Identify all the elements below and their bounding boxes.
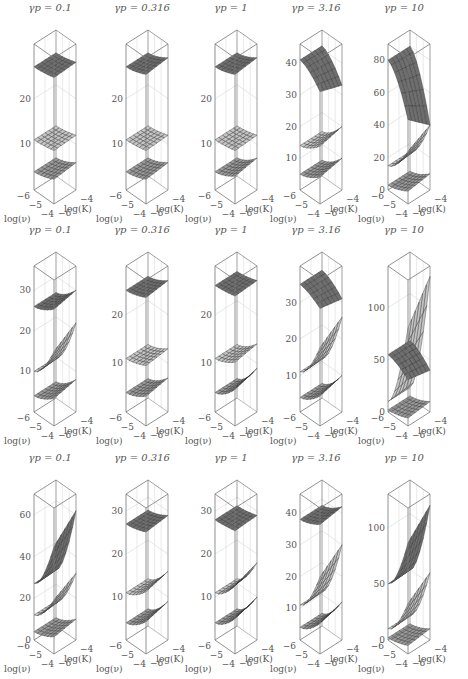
x-axis-label: log(ν)	[358, 436, 385, 446]
x-axis-label: log(ν)	[96, 664, 123, 674]
z-tick-label: 80	[374, 55, 386, 65]
z-tick-label: 30	[286, 298, 298, 308]
surface-plot-panel: γp = 0.316102030−6−5−4−6−4log(ν)log(K)	[96, 450, 188, 670]
surface-plot-panel: γp = 10020406080−6−5−4−6−4log(ν)log(K)	[358, 0, 450, 220]
z-tick-label: 20	[374, 153, 386, 163]
svg-text:−4: −4	[307, 209, 321, 219]
svg-text:−4: −4	[434, 416, 448, 426]
z-tick-label: 20	[20, 326, 32, 336]
z-tick-label: 20	[112, 310, 124, 320]
y-axis-label: log(K)	[418, 654, 446, 664]
z-tick-label: 40	[20, 552, 32, 562]
z-tick-label: 40	[374, 120, 386, 130]
z-tick-label: 10	[201, 139, 213, 149]
z-tick-label: 20	[286, 334, 298, 344]
svg-text:−4: −4	[307, 659, 321, 669]
z-tick-label: 30	[286, 540, 298, 550]
svg-text:−4: −4	[395, 659, 409, 669]
z-tick-label: 10	[20, 366, 32, 376]
z-tick-label: 20	[286, 572, 298, 582]
y-axis-label: log(K)	[156, 426, 184, 436]
z-tick-label: 50	[374, 355, 386, 365]
surface-plot-panel: γp = 10050100−6−5−4−6−4log(ν)log(K)	[358, 450, 450, 670]
surface-plot-panel: γp = 3.1610203040−6−5−4−6−4log(ν)log(K)	[270, 450, 362, 670]
y-axis-label: log(K)	[156, 654, 184, 664]
z-tick-label: 20	[112, 549, 124, 559]
z-tick-label: 100	[368, 303, 385, 313]
z-tick-label: 20	[201, 94, 213, 104]
x-axis-label: log(ν)	[185, 664, 212, 674]
surface-plot-panel: γp = 10050100−6−5−4−6−4log(ν)log(K)	[358, 222, 450, 442]
svg-text:−4: −4	[41, 209, 55, 219]
svg-text:−4: −4	[133, 431, 147, 441]
z-tick-label: 10	[112, 592, 124, 602]
y-axis-label: log(K)	[156, 204, 184, 214]
z-tick-label: 20	[20, 593, 32, 603]
surface-plot-panel: γp = 0.10204060−6−5−4−6−4log(ν)log(K)	[4, 450, 96, 670]
z-tick-label: 10	[112, 139, 124, 149]
y-axis-label: log(K)	[64, 654, 92, 664]
svg-text:−4: −4	[434, 644, 448, 654]
z-tick-label: 20	[201, 310, 213, 320]
y-axis-label: log(K)	[418, 426, 446, 436]
svg-text:−4: −4	[222, 209, 236, 219]
svg-text:−4: −4	[222, 431, 236, 441]
surface-plot-panel: γp = 1102030−6−5−4−6−4log(ν)log(K)	[185, 450, 277, 670]
y-axis-label: log(K)	[64, 426, 92, 436]
surface-plot-panel: γp = 3.1610203040−6−5−4−6−4log(ν)log(K)	[270, 0, 362, 220]
x-axis-label: log(ν)	[358, 664, 385, 674]
z-tick-label: 30	[201, 506, 213, 516]
surface-plot-panel: γp = 0.3161020−6−5−4−6−4log(ν)log(K)	[96, 0, 188, 220]
z-tick-label: 10	[286, 371, 298, 381]
x-axis-label: log(ν)	[96, 436, 123, 446]
z-tick-label: 10	[20, 139, 32, 149]
z-tick-label: 60	[20, 510, 32, 520]
svg-text:−4: −4	[41, 659, 55, 669]
z-tick-label: 20	[112, 94, 124, 104]
surface-plot-panel: γp = 11020−6−5−4−6−4log(ν)log(K)	[185, 222, 277, 442]
surface-plot-panel: γp = 0.11020−6−5−4−6−4log(ν)log(K)	[4, 0, 96, 220]
y-axis-label: log(K)	[64, 204, 92, 214]
svg-text:−4: −4	[41, 431, 55, 441]
z-tick-label: 10	[112, 358, 124, 368]
surface-plot-panel: γp = 0.1102030−6−5−4−6−4log(ν)log(K)	[4, 222, 96, 442]
z-tick-label: 10	[201, 358, 213, 368]
figure-grid: γp = 0.11020−6−5−4−6−4log(ν)log(K)γp = 0…	[0, 0, 468, 679]
z-tick-label: 40	[286, 58, 298, 68]
z-tick-label: 40	[286, 508, 298, 518]
svg-text:−4: −4	[395, 431, 409, 441]
x-axis-label: log(ν)	[4, 664, 31, 674]
svg-text:−4: −4	[222, 659, 236, 669]
svg-text:−4: −4	[133, 209, 147, 219]
svg-text:−4: −4	[434, 194, 448, 204]
x-axis-label: log(ν)	[270, 436, 297, 446]
svg-text:−4: −4	[133, 659, 147, 669]
surface-plot-panel: γp = 3.16102030−6−5−4−6−4log(ν)log(K)	[270, 222, 362, 442]
x-axis-label: log(ν)	[185, 436, 212, 446]
z-tick-label: 10	[286, 603, 298, 613]
surface-plot-panel: γp = 11020−6−5−4−6−4log(ν)log(K)	[185, 0, 277, 220]
z-tick-label: 30	[20, 285, 32, 295]
z-tick-label: 20	[201, 549, 213, 559]
x-axis-label: log(ν)	[4, 436, 31, 446]
z-tick-label: 30	[112, 506, 124, 516]
svg-text:−4: −4	[395, 209, 409, 219]
z-tick-label: 20	[20, 94, 32, 104]
z-tick-label: 60	[374, 88, 386, 98]
x-axis-label: log(ν)	[270, 664, 297, 674]
z-tick-label: 30	[286, 90, 298, 100]
surface-plot-panel: γp = 0.3161020−6−5−4−6−4log(ν)log(K)	[96, 222, 188, 442]
z-tick-label: 10	[201, 592, 213, 602]
y-axis-label: log(K)	[418, 204, 446, 214]
z-tick-label: 100	[368, 523, 385, 533]
z-tick-label: 20	[286, 122, 298, 132]
z-tick-label: 50	[374, 579, 386, 589]
z-tick-label: 10	[286, 153, 298, 163]
svg-text:−4: −4	[307, 431, 321, 441]
